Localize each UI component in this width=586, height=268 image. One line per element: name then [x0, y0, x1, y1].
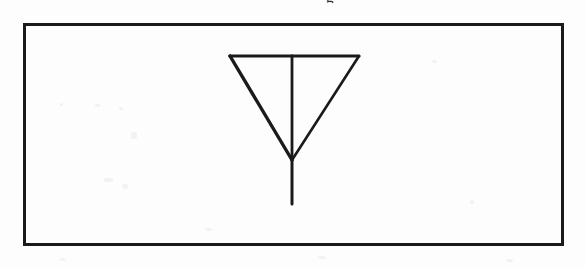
inverted-triangle-with-stem [230, 56, 359, 204]
triangle-left-diagonal [230, 56, 292, 160]
figure-page: g [0, 0, 586, 268]
figure-canvas [0, 0, 586, 268]
triangle-right-diagonal [292, 56, 359, 160]
